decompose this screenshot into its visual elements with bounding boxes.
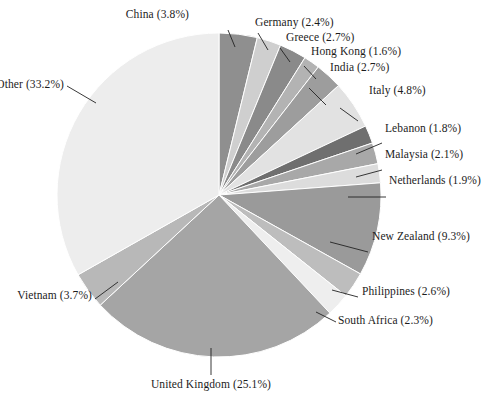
- pie-chart-canvas: [0, 0, 494, 400]
- pie-slices: [57, 33, 381, 357]
- slice-label: Italy (4.8%): [369, 84, 426, 97]
- slice-label: Netherlands (1.9%): [389, 174, 481, 187]
- pie-chart: China (3.8%)Germany (2.4%)Greece (2.7%)H…: [0, 0, 494, 400]
- slice-label: China (3.8%): [126, 8, 189, 21]
- slice-label: Malaysia (2.1%): [385, 148, 463, 161]
- slice-label: Germany (2.4%): [255, 16, 334, 29]
- slice-label: New Zealand (9.3%): [372, 230, 470, 243]
- slice-label: Lebanon (1.8%): [385, 122, 461, 135]
- slice-label: South Africa (2.3%): [338, 314, 433, 327]
- slice-label: India (2.7%): [330, 61, 389, 74]
- slice-label: Philippines (2.6%): [362, 285, 450, 298]
- slice-label: Other (33.2%): [0, 78, 64, 91]
- slice-label: Vietnam (3.7%): [17, 289, 92, 302]
- slice-label: Hong Kong (1.6%): [311, 45, 401, 58]
- slice-label: United Kingdom (25.1%): [0, 378, 422, 391]
- slice-label: Greece (2.7%): [286, 31, 354, 44]
